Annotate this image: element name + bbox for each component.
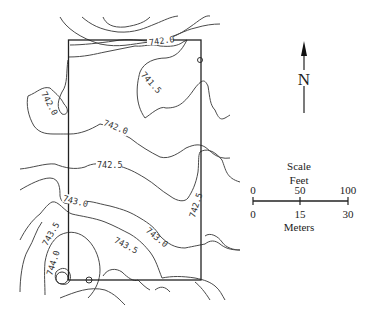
- marker-circle: [56, 272, 68, 284]
- meters-tick-0: 0: [250, 208, 256, 220]
- contour-map: 742.0 741.5 742.0 742.0 742.5 742.5 743.…: [0, 0, 371, 310]
- meters-tick-30: 30: [343, 208, 355, 220]
- scale-title: Scale: [287, 160, 311, 172]
- feet-tick-100: 100: [340, 184, 357, 196]
- contour-label: 743.0: [62, 193, 89, 209]
- feet-tick-0: 0: [250, 184, 256, 196]
- scale-meters-label: Meters: [284, 221, 315, 233]
- north-arrow: N: [296, 41, 312, 113]
- north-arrow-head-icon: [301, 41, 307, 56]
- contour-label: 741.5: [139, 70, 164, 96]
- scale-bar: Scale Feet 0 50 100 0 15 30 Meters: [250, 160, 357, 233]
- contour-label: 742.5: [97, 160, 123, 170]
- feet-tick-50: 50: [295, 184, 307, 196]
- contour-labels: 742.0 741.5 742.0 742.0 742.5 742.5 743.…: [39, 34, 204, 276]
- contour-label: 742.0: [148, 34, 175, 47]
- contour-label: 743.5: [40, 220, 61, 247]
- meters-tick-15: 15: [295, 208, 307, 220]
- contour-label: 743.0: [144, 225, 170, 249]
- north-label: N: [298, 70, 310, 89]
- contour-label: 742.0: [102, 117, 129, 136]
- marker-circle: [198, 58, 203, 63]
